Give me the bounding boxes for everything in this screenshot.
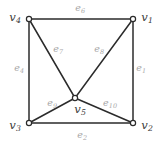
vertex-label-v1-subscript: 1	[148, 16, 153, 25]
vertex-label-v3-subscript: 3	[16, 124, 21, 133]
edge-label-e7: e7	[53, 44, 63, 54]
vertex-label-v1: v1	[141, 12, 152, 24]
graph-diagram: v1v2v3v4v5e1e2e4e6e7e8e9e10	[0, 0, 163, 145]
vertex-label-v5-base: v	[74, 102, 81, 116]
edge-label-e9: e9	[47, 98, 57, 108]
edge-label-e10-base: e	[103, 97, 109, 108]
edge-label-e1-subscript: 1	[142, 67, 146, 75]
edge-label-e8: e8	[94, 44, 104, 54]
vertex-label-v2: v2	[141, 120, 152, 132]
vertex-label-v2-base: v	[141, 118, 148, 132]
graph-vertex-v2	[130, 120, 135, 125]
vertex-label-v1-base: v	[141, 10, 148, 24]
vertex-label-v4: v4	[9, 12, 20, 24]
vertex-label-v4-subscript: 4	[16, 16, 21, 25]
vertex-label-v4-base: v	[9, 10, 16, 24]
graph-edge-e7	[29, 19, 75, 98]
edge-label-e1: e1	[136, 63, 146, 73]
edge-label-e2: e2	[77, 130, 87, 140]
vertex-label-v2-subscript: 2	[148, 124, 153, 133]
edge-label-e6: e6	[75, 3, 85, 13]
graph-vertex-v5	[72, 95, 77, 100]
edge-label-e8-base: e	[94, 43, 100, 54]
edge-label-e4-subscript: 4	[20, 67, 24, 75]
edge-label-e6-subscript: 6	[81, 7, 85, 15]
edge-label-e7-subscript: 7	[59, 48, 63, 56]
graph-vertex-v3	[26, 120, 31, 125]
vertex-label-v3-base: v	[9, 118, 16, 132]
edge-label-e4: e4	[14, 63, 24, 73]
edge-label-e10: e10	[103, 98, 117, 108]
vertex-label-v5-subscript: 5	[81, 108, 86, 117]
edge-label-e8-subscript: 8	[100, 48, 104, 56]
graph-vertex-v4	[26, 16, 31, 21]
edge-label-e9-subscript: 9	[53, 102, 57, 110]
edge-label-e2-subscript: 2	[83, 134, 87, 142]
edge-label-e4-base: e	[14, 62, 20, 73]
vertex-label-v3: v3	[9, 120, 20, 132]
edge-label-e6-base: e	[75, 2, 81, 13]
graph-vertex-v1	[130, 16, 135, 21]
edge-label-e1-base: e	[136, 62, 142, 73]
edge-label-e7-base: e	[53, 43, 59, 54]
edge-label-e9-base: e	[47, 97, 53, 108]
vertex-label-v5: v5	[74, 104, 85, 116]
edge-label-e2-base: e	[77, 129, 83, 140]
graph-edge-e8	[75, 19, 133, 98]
edge-label-e10-subscript: 10	[109, 102, 117, 110]
